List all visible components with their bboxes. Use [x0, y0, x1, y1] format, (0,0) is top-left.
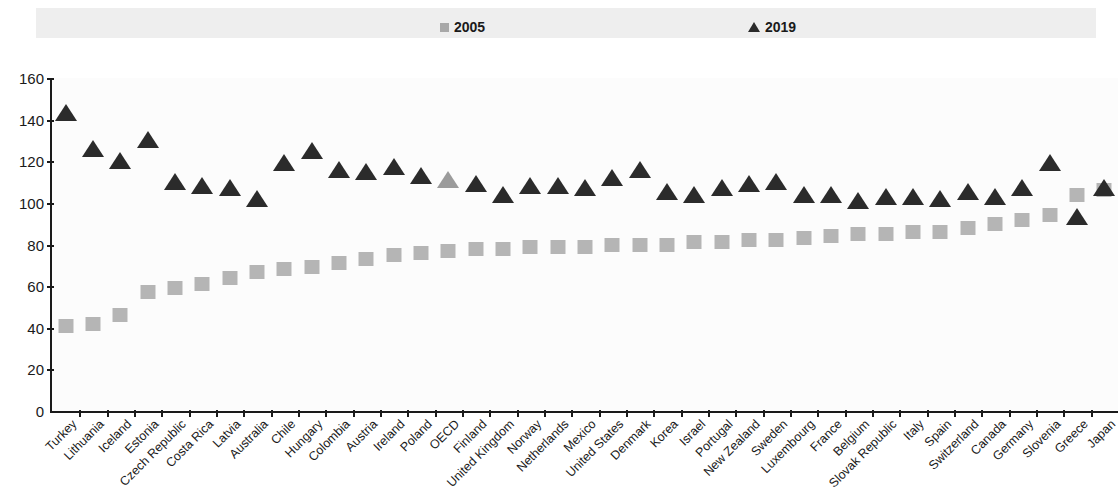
data-point-2019: [519, 177, 541, 194]
x-axis-category-label: Latvia: [210, 417, 243, 450]
x-axis-tick-mark: [353, 410, 355, 417]
x-axis-category-label: France: [807, 417, 844, 454]
data-point-2019: [820, 186, 842, 203]
x-axis-category-label: Italy: [901, 417, 927, 443]
data-point-2005: [414, 246, 429, 260]
data-point-2005: [359, 252, 374, 266]
data-point-2005: [496, 242, 511, 256]
data-point-2019: [984, 188, 1006, 205]
x-axis-tick-mark: [462, 410, 464, 417]
x-axis-category-label: Israel: [677, 417, 709, 449]
data-point-2005: [1070, 188, 1085, 202]
y-axis-tick-label: 40: [27, 319, 44, 336]
x-axis-category-label: Australia: [227, 417, 271, 461]
data-point-2005: [168, 281, 183, 295]
x-axis-tick-mark: [298, 410, 300, 417]
data-point-2019: [109, 152, 131, 169]
x-axis-category-label: Ireland: [371, 417, 408, 454]
x-axis-tick-mark: [708, 410, 710, 417]
legend-label-2005: 2005: [454, 20, 485, 34]
data-point-2005: [277, 262, 292, 276]
data-point-2005: [824, 229, 839, 243]
x-axis-category-label: Germany: [990, 417, 1036, 463]
x-axis-category-label: Iceland: [96, 417, 134, 455]
data-point-2019: [656, 183, 678, 200]
data-point-2019: [847, 192, 869, 209]
triangle-icon: [748, 22, 760, 32]
data-point-2005: [933, 225, 948, 239]
data-point-2005: [714, 235, 729, 249]
y-axis-tick-mark: [47, 245, 54, 247]
data-point-2005: [632, 238, 647, 252]
data-point-2019: [711, 179, 733, 196]
x-axis-category-label: Switzerland: [926, 417, 982, 473]
x-axis-tick-mark: [544, 410, 546, 417]
data-point-2005: [769, 233, 784, 247]
x-axis-category-label: Japan: [1084, 417, 1118, 451]
data-point-2005: [550, 240, 565, 254]
legend-item-2019: 2019: [748, 20, 796, 34]
x-axis-tick-mark: [899, 410, 901, 417]
data-point-2019: [1093, 179, 1115, 196]
x-axis-tick-mark: [407, 410, 409, 417]
data-point-2019: [383, 158, 405, 175]
data-point-2019: [765, 173, 787, 190]
x-axis-tick-mark: [380, 410, 382, 417]
x-axis-tick-mark: [161, 410, 163, 417]
y-axis-tick-label: 0: [36, 403, 44, 420]
x-axis-category-label: Slovak Republic: [826, 417, 899, 490]
y-axis-tick-label: 60: [27, 278, 44, 295]
data-point-2005: [660, 238, 675, 252]
y-axis-tick-mark: [47, 328, 54, 330]
x-axis-tick-mark: [216, 410, 218, 417]
data-point-2019: [683, 186, 705, 203]
x-axis-category-label: OECD: [427, 417, 462, 452]
x-axis-tick-mark: [845, 410, 847, 417]
data-point-2005: [304, 260, 319, 274]
x-axis-tick-mark: [271, 410, 273, 417]
x-axis-category-label: Luxembourg: [759, 417, 818, 476]
y-axis-tick-mark: [47, 120, 54, 122]
square-icon: [440, 23, 449, 32]
x-axis-tick-mark: [79, 410, 81, 417]
data-point-2005: [386, 248, 401, 262]
x-axis-tick-mark: [489, 410, 491, 417]
data-point-2019: [328, 161, 350, 178]
x-axis-category-label: Korea: [647, 417, 680, 450]
data-point-2019: [629, 161, 651, 178]
data-point-2005: [687, 235, 702, 249]
x-axis-category-label: United Kingdom: [444, 417, 517, 490]
x-axis-category-label: Turkey: [43, 417, 80, 454]
data-point-2019: [547, 177, 569, 194]
x-axis-tick-mark: [1063, 410, 1065, 417]
data-point-2019: [1039, 154, 1061, 171]
data-point-2005: [441, 244, 456, 258]
x-axis-tick-mark: [763, 410, 765, 417]
x-axis-category-label: United States: [563, 417, 626, 480]
x-axis-tick-mark: [653, 410, 655, 417]
y-axis-tick-mark: [47, 286, 54, 288]
x-axis-tick-mark: [134, 410, 136, 417]
data-point-2005: [140, 285, 155, 299]
x-axis-category-label: Slovenia: [1020, 417, 1064, 461]
data-point-2019: [1011, 179, 1033, 196]
plot-area: [50, 78, 1118, 413]
legend-item-2005: 2005: [440, 20, 485, 34]
x-axis-category-label: Colombia: [306, 417, 353, 464]
x-axis-category-label: Sweden: [748, 417, 790, 459]
data-point-2005: [1042, 208, 1057, 222]
data-point-2005: [988, 217, 1003, 231]
y-axis-tick-mark: [47, 78, 54, 80]
x-axis-category-label: Canada: [968, 417, 1009, 458]
x-axis-category-label: Costa Rica: [163, 417, 216, 470]
data-point-2019: [738, 175, 760, 192]
data-point-2005: [86, 317, 101, 331]
x-axis-tick-mark: [981, 410, 983, 417]
data-point-2019: [929, 190, 951, 207]
data-point-2019: [465, 175, 487, 192]
x-axis-category-label: Norway: [504, 417, 544, 457]
data-point-2019: [164, 173, 186, 190]
data-point-2019: [55, 104, 77, 121]
x-axis-tick-mark: [243, 410, 245, 417]
data-point-2019: [875, 188, 897, 205]
